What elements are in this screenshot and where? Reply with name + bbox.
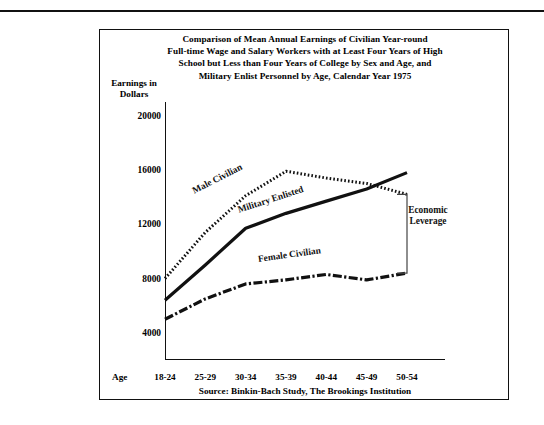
plot-canvas xyxy=(165,102,445,360)
chart-title-line-4: Military Enlist Personnel by Age, Calend… xyxy=(110,70,500,82)
x-tick-18-24: 18-24 xyxy=(143,372,187,383)
x-axis-prefix-label: Age xyxy=(112,372,127,382)
y-axis-title: Earnings in Dollars xyxy=(103,78,165,100)
chart-title-line-2: Full-time Wage and Salary Workers with a… xyxy=(110,45,500,57)
x-tick-45-49: 45-49 xyxy=(345,372,389,383)
x-tick-25-29: 25-29 xyxy=(183,372,227,383)
figure-page: Comparison of Mean Annual Earnings of Ci… xyxy=(0,0,544,425)
chart-title: Comparison of Mean Annual Earnings of Ci… xyxy=(110,33,500,82)
y-axis-title-line-2: Dollars xyxy=(103,89,165,100)
source-caption: Source: Binkin-Bach Study, The Brookings… xyxy=(110,386,500,396)
x-tick-30-34: 30-34 xyxy=(224,372,268,383)
y-axis-title-line-1: Earnings in xyxy=(103,78,165,89)
y-tick-12000: 12000 xyxy=(113,219,161,229)
x-tick-40-44: 40-44 xyxy=(304,372,348,383)
x-tick-50-54: 50-54 xyxy=(385,372,429,383)
chart-title-line-1: Comparison of Mean Annual Earnings of Ci… xyxy=(110,33,500,45)
chart-title-line-3: School but Less than Four Years of Colle… xyxy=(110,57,500,69)
y-tick-4000: 4000 xyxy=(113,328,161,338)
y-tick-8000: 8000 xyxy=(113,274,161,284)
x-tick-35-39: 35-39 xyxy=(264,372,308,383)
top-horizontal-rule xyxy=(0,10,544,12)
x-axis-tick-labels: Age 18-2425-2930-3435-3940-4445-4950-54 xyxy=(112,372,472,384)
y-tick-20000: 20000 xyxy=(113,111,161,121)
series-line-female-civilian xyxy=(165,273,407,319)
y-tick-16000: 16000 xyxy=(113,165,161,175)
annotation-economic-leverage: Economic Leverage xyxy=(399,205,457,227)
